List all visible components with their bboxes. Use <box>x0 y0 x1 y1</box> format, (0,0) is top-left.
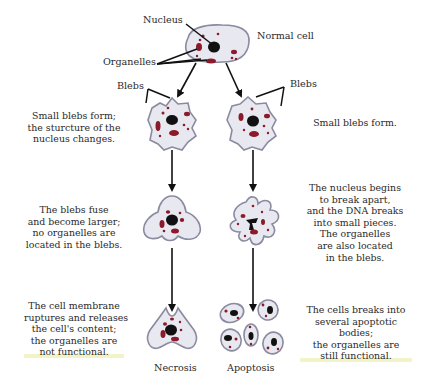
apoptosis-stage2-cell <box>230 197 278 245</box>
apoptosis-step-1-text: Small blebs form. <box>300 117 410 129</box>
cell-death-diagram: Nucleus Normal cell Organelles Blebs Ble… <box>0 0 424 389</box>
apoptotic-body <box>244 324 258 346</box>
apoptotic-bodies <box>217 297 286 357</box>
necrosis-step-3-text: The cell membrane ruptures and releases … <box>24 300 124 358</box>
apoptosis-step-3-text: The cells breaks into several apoptotic … <box>300 304 412 362</box>
normal-cell-label: Normal cell <box>257 30 314 42</box>
apoptosis-label: Apoptosis <box>227 362 275 374</box>
apoptotic-body <box>260 329 286 357</box>
arrows <box>172 63 253 310</box>
apoptosis-step-2-text: The nucleus begins to break apart, and t… <box>300 182 410 263</box>
apoptotic-body <box>255 297 281 323</box>
necrosis-stage2-cell <box>144 196 201 241</box>
necrosis-label: Necrosis <box>154 362 197 374</box>
nucleus-label: Nucleus <box>143 14 183 26</box>
necrosis-final-cell <box>148 308 197 348</box>
necrosis-stage1-cell <box>148 98 196 150</box>
organelles-label: Organelles <box>103 56 156 68</box>
blebs-left-label: Blebs <box>117 80 144 92</box>
apoptotic-body <box>218 300 247 325</box>
necrosis-step-1-text: Small blebs form; the sturcture of the n… <box>24 110 124 145</box>
necrosis-step-2-text: The blebs fuse and become larger; no org… <box>24 204 124 250</box>
blebs-right-label: Blebs <box>290 78 317 90</box>
apoptotic-body <box>217 326 244 354</box>
apoptosis-stage1-cell <box>227 97 276 150</box>
